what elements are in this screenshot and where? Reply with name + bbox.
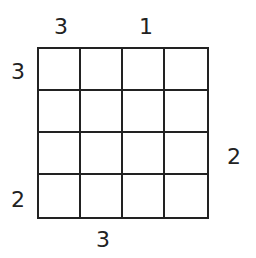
grid-cell-r3-c1[interactable] [81,175,123,217]
grid-cell-r1-c1[interactable] [81,91,123,133]
grid-cell-r2-c1[interactable] [81,133,123,175]
puzzle-grid [37,47,209,219]
clue-bottom-col-1: 3 [91,227,115,253]
grid-cell-r0-c3[interactable] [165,49,207,91]
grid-cell-r3-c2[interactable] [123,175,165,217]
grid-cell-r1-c2[interactable] [123,91,165,133]
clue-top-col-2: 1 [134,14,158,40]
grid-cell-r1-c0[interactable] [39,91,81,133]
clue-left-row-3: 2 [6,187,30,213]
grid-cell-r2-c2[interactable] [123,133,165,175]
grid-cell-r0-c0[interactable] [39,49,81,91]
grid-cell-r1-c3[interactable] [165,91,207,133]
grid-cell-r0-c1[interactable] [81,49,123,91]
clue-right-row-2: 2 [222,144,246,170]
grid-cell-r2-c3[interactable] [165,133,207,175]
clue-top-col-0: 3 [49,14,73,40]
grid-cell-r3-c0[interactable] [39,175,81,217]
grid-cell-r2-c0[interactable] [39,133,81,175]
clue-left-row-0: 3 [6,59,30,85]
grid-cell-r0-c2[interactable] [123,49,165,91]
grid-cell-r3-c3[interactable] [165,175,207,217]
